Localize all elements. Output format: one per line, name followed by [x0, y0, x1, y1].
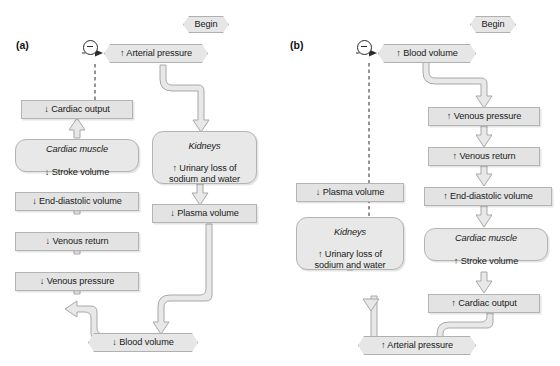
- panel-a-node-venous-pressure: ↓ Venous pressure: [15, 272, 139, 291]
- panel-b-node-plasma-volume: ↓ Plasma volume: [296, 183, 404, 202]
- panel-a-kidneys-effect: ↑ Urinary loss of sodium and water: [169, 163, 240, 184]
- panel-b-plasma-volume-text: ↓ Plasma volume: [313, 187, 387, 198]
- panel-a-label: (a): [16, 39, 29, 51]
- panel-a-negative-feedback-icon: [83, 40, 98, 55]
- panel-a-begin-text: Begin: [192, 19, 221, 30]
- panel-b-edv-text: ↑ End-diastolic volume: [440, 191, 536, 202]
- panel-a-node-cardiac-muscle: Cardiac muscle ↓ Stroke volume: [15, 139, 139, 172]
- arrow-b-venousreturn-to-edv: [476, 166, 492, 186]
- panel-a-node-plasma-volume: ↓ Plasma volume: [152, 204, 257, 223]
- panel-b-node-blood-volume: ↑ Blood volume: [378, 44, 476, 63]
- panel-b-node-venous-return: ↑ Venous return: [428, 147, 540, 166]
- panel-b-cardiac-muscle-effect: ↑ Stroke volume: [454, 256, 518, 266]
- panel-a-node-end-diastolic-volume: ↓ End-diastolic volume: [15, 192, 139, 211]
- arrow-b-blood-to-venouspressure: [423, 60, 492, 108]
- arrow-b-venouspressure-to-venousreturn: [476, 126, 492, 147]
- panel-b-cardiac-muscle-organ: Cardiac muscle: [454, 233, 518, 244]
- arrow-b-cardiacmuscle-to-cardiacoutput: [476, 272, 492, 293]
- panel-a-arterial-pressure-text: ↑ Arterial pressure: [117, 48, 195, 59]
- panel-b-label: (b): [290, 39, 303, 51]
- figure-canvas: .bar { fill:#e8e8e8; stroke:#a8a8a8; str…: [0, 0, 560, 366]
- panel-a-venous-return-text: ↓ Venous return: [43, 236, 112, 247]
- panel-a-node-blood-volume: ↓ Blood volume: [88, 333, 198, 352]
- panel-b-node-kidneys: Kidneys ↑ Urinary loss of sodium and wat…: [296, 217, 404, 270]
- panel-a-cardiac-muscle-organ: Cardiac muscle: [45, 144, 109, 155]
- panel-a-kidneys-organ: Kidneys: [169, 141, 240, 152]
- panel-b-cardiac-output-text: ↑ Cardiac output: [448, 298, 519, 309]
- panel-b-blood-volume-text: ↑ Blood volume: [393, 48, 460, 59]
- panel-b-node-cardiac-muscle: Cardiac muscle ↑ Stroke volume: [424, 228, 548, 261]
- panel-b-begin-node: Begin: [470, 16, 516, 33]
- panel-b-begin-text: Begin: [479, 19, 508, 30]
- panel-b-negative-feedback-icon: [357, 40, 372, 55]
- panel-a-blood-volume-text: ↓ Blood volume: [109, 337, 176, 348]
- panel-a-begin-node: Begin: [183, 16, 229, 33]
- panel-a-node-kidneys: Kidneys ↑ Urinary loss of sodium and wat…: [152, 131, 257, 184]
- panel-b-venous-pressure-text: ↑ Venous pressure: [444, 111, 524, 122]
- panel-a-node-venous-return: ↓ Venous return: [15, 232, 139, 251]
- panel-b-node-cardiac-output: ↑ Cardiac output: [428, 294, 540, 313]
- panel-a-venous-pressure-text: ↓ Venous pressure: [37, 276, 117, 287]
- panel-b-kidneys-organ: Kidneys: [315, 227, 386, 238]
- panel-a-cardiac-muscle-effect: ↓ Stroke volume: [45, 167, 109, 177]
- panel-b-node-venous-pressure: ↑ Venous pressure: [428, 107, 540, 126]
- arrow-a-pressure-to-kidneys: [160, 65, 209, 132]
- panel-b-node-end-diastolic-volume: ↑ End-diastolic volume: [424, 187, 552, 206]
- panel-b-venous-return-text: ↑ Venous return: [450, 151, 519, 162]
- arrow-a-plasma-to-blood: [153, 224, 212, 334]
- panel-a-edv-text: ↓ End-diastolic volume: [29, 196, 125, 207]
- panel-b-kidneys-effect: ↑ Urinary loss of sodium and water: [315, 249, 386, 270]
- panel-a-node-cardiac-output: ↓ Cardiac output: [21, 100, 133, 119]
- panel-a-cardiac-output-text: ↓ Cardiac output: [41, 104, 112, 115]
- panel-a-plasma-volume-text: ↓ Plasma volume: [167, 208, 241, 219]
- panel-a-node-arterial-pressure: ↑ Arterial pressure: [104, 44, 208, 63]
- arrow-a-kidneys-to-plasma: [192, 184, 208, 205]
- panel-b-arterial-pressure-text: ↑ Arterial pressure: [378, 340, 456, 351]
- panel-b-node-arterial-pressure: ↑ Arterial pressure: [358, 336, 476, 355]
